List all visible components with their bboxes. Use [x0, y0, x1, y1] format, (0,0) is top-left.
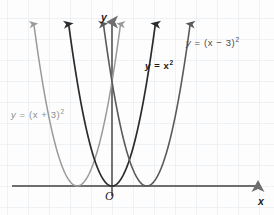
curve-label-base-exponent: 2: [169, 59, 173, 66]
curve-label-shift-left-text: y: [11, 109, 16, 120]
y-axis-label: y: [101, 12, 107, 23]
x-axis-label: x: [258, 196, 264, 207]
plot-canvas: [0, 0, 274, 215]
curve-label-shift-right-exponent: 2: [235, 36, 239, 43]
curve-label-base-body: = x: [154, 60, 169, 71]
curve-label-base-text: y: [145, 60, 151, 71]
grid-lines: [0, 0, 274, 215]
curve-label-shift-left-body: = (x + 3): [20, 109, 61, 120]
parabola-translation-figure: y = (x − 3)2 y = x2 y = (x + 3)2 x y O: [0, 0, 274, 215]
curve-label-shift-left: y = (x + 3)2: [11, 110, 65, 120]
curve-label-shift-right: y = (x − 3)2: [186, 38, 240, 48]
curve-label-base: y = x2: [145, 61, 174, 71]
curve-label-shift-left-exponent: 2: [60, 108, 64, 115]
curve-label-shift-right-body: = (x − 3): [195, 37, 236, 48]
origin-label: O: [105, 190, 114, 202]
curve-label-shift-right-text: y: [186, 37, 191, 48]
